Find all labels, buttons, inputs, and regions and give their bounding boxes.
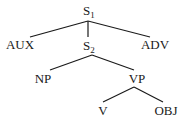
edge-vp-obj [134, 87, 163, 102]
tree-nodes: S1 AUX S2 ADV NP VP V OBJ [6, 3, 178, 118]
syntax-tree-diagram: S1 AUX S2 ADV NP VP V OBJ [0, 0, 181, 123]
node-aux: AUX [6, 37, 35, 52]
tree-svg: S1 AUX S2 ADV NP VP V OBJ [0, 0, 181, 123]
node-vp: VP [129, 71, 146, 86]
edge-vp-v [103, 87, 134, 102]
edge-s1-aux [30, 21, 88, 37]
node-v: V [98, 103, 108, 118]
node-s1: S1 [83, 3, 95, 20]
edge-s2-np [50, 55, 92, 70]
node-np: NP [35, 71, 52, 86]
node-adv: ADV [141, 37, 170, 52]
node-s2: S2 [83, 38, 95, 55]
edge-s2-vp [92, 55, 134, 70]
tree-edges [30, 21, 163, 102]
edge-s1-adv [88, 21, 150, 37]
node-obj: OBJ [154, 103, 177, 118]
